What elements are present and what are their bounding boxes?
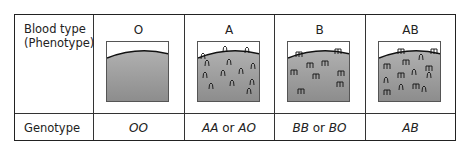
- genotype-value: BB: [292, 121, 308, 135]
- phenotype-label-line1: Blood type: [24, 22, 94, 36]
- red-cell-o-illustration: [106, 41, 169, 102]
- genotype-a: AA or AO: [184, 121, 274, 135]
- genotype-value: AB: [402, 121, 418, 135]
- blood-type-table: Blood type (Phenotype) Genotype O A B AB: [14, 14, 456, 141]
- genotype-row-label: Genotype: [24, 121, 80, 135]
- row-divider: [15, 113, 455, 114]
- or-word: or: [218, 121, 238, 135]
- red-cell-b-illustration: [287, 41, 350, 102]
- genotype-o: OO: [93, 121, 184, 135]
- blood-type-header-o: O: [93, 23, 184, 37]
- genotype-value: OO: [129, 121, 148, 135]
- phenotype-label-line2: (Phenotype): [24, 36, 94, 50]
- genotype-value: AA: [202, 121, 218, 135]
- blood-type-header-a: A: [184, 23, 274, 37]
- or-word: or: [309, 121, 329, 135]
- genotype-ab: AB: [365, 121, 456, 135]
- red-cell-ab-illustration: [378, 41, 441, 102]
- blood-type-header-b: B: [274, 23, 365, 37]
- blood-type-header-ab: AB: [365, 23, 456, 37]
- red-cell-a-illustration: [197, 41, 260, 102]
- phenotype-row-label: Blood type (Phenotype): [24, 22, 94, 50]
- genotype-b: BB or BO: [274, 121, 365, 135]
- genotype-value: BO: [329, 121, 347, 135]
- genotype-value: AO: [238, 121, 256, 135]
